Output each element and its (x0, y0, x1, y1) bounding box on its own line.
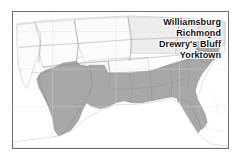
map-figure: Williamsburg Richmond Drewry's Bluff Yor… (0, 0, 237, 160)
map-label-richmond: Richmond (176, 28, 221, 38)
map-label-yorktown: Yorktown (180, 50, 221, 60)
mountain-states (35, 20, 79, 67)
great-plains-states (74, 17, 131, 61)
map-label-drewrys-bluff: Drewry's Bluff (159, 39, 221, 49)
map-label-williamsburg: Williamsburg (163, 17, 221, 27)
